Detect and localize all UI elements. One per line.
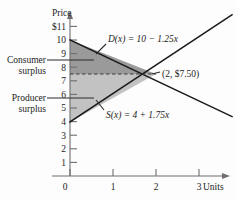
x-axis-title: Units [203, 182, 224, 192]
demand-equation-label: D(x) = 10 − 1.25x [107, 34, 179, 45]
producer-surplus-label-line1: Producer [12, 93, 47, 103]
consumer-surplus-label-line2: surplus [19, 66, 47, 76]
y-tick-label-7: 7 [61, 76, 66, 86]
y-tick-label-3: 3 [61, 131, 66, 141]
x-tick-label-0: 0 [63, 182, 68, 192]
y-tick-label-10: 10 [57, 35, 67, 45]
x-axis-arrow-icon [222, 173, 230, 179]
y-tick-label-6: 6 [61, 90, 66, 100]
y-axis-title: Price [52, 8, 72, 18]
y-tick-label-2: 2 [61, 144, 66, 154]
supply-equation-label: S(x) = 4 + 1.75x [106, 110, 170, 121]
producer-surplus-label-line2: surplus [19, 104, 47, 114]
y-tick-label-11: $11 [52, 22, 66, 32]
y-tick-label-5: 5 [61, 103, 66, 113]
x-tick-label-3: 3 [197, 182, 202, 192]
equilibrium-point-label: (2, $7.50) [162, 69, 199, 80]
chart-figure: $11 10 9 8 7 6 5 4 3 2 1 0 1 2 3 Price U… [0, 0, 236, 200]
y-tick-label-4: 4 [61, 117, 66, 127]
y-tick-label-1: 1 [61, 158, 66, 168]
x-tick-label-2: 2 [154, 182, 159, 192]
consumer-surplus-label-line1: Consumer [7, 55, 47, 65]
consumer-surplus-region [70, 40, 156, 74]
x-tick-label-1: 1 [111, 182, 116, 192]
y-tick-label-9: 9 [61, 49, 66, 59]
y-tick-label-8: 8 [61, 63, 66, 73]
economics-surplus-chart: $11 10 9 8 7 6 5 4 3 2 1 0 1 2 3 Price U… [0, 0, 236, 200]
